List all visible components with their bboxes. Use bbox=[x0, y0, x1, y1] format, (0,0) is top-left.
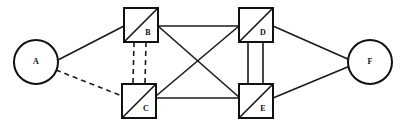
edge-a-b bbox=[56, 26, 124, 61]
edge-e-f bbox=[273, 66, 350, 98]
node-layer: ABCDEF bbox=[14, 8, 392, 118]
edge-d-f bbox=[273, 26, 350, 60]
node-a[interactable]: A bbox=[14, 40, 58, 84]
edge-b-c-right bbox=[145, 42, 146, 84]
node-b[interactable]: B bbox=[124, 8, 158, 42]
network-diagram: ABCDEF bbox=[0, 0, 403, 126]
node-label-d: D bbox=[260, 28, 266, 37]
node-f[interactable]: F bbox=[348, 40, 392, 84]
edge-b-c-left bbox=[133, 42, 134, 84]
edge-layer bbox=[56, 26, 350, 98]
node-d[interactable]: D bbox=[239, 8, 273, 42]
node-e[interactable]: E bbox=[239, 84, 273, 118]
edge-b-e bbox=[158, 26, 240, 98]
network-diagram-canvas: ABCDEF bbox=[0, 0, 403, 126]
node-label-c: C bbox=[143, 104, 149, 113]
node-label-a: A bbox=[33, 57, 39, 66]
node-c[interactable]: C bbox=[122, 84, 156, 118]
node-label-f: F bbox=[368, 57, 373, 66]
edge-a-c bbox=[56, 70, 122, 96]
node-label-e: E bbox=[260, 104, 265, 113]
node-label-b: B bbox=[145, 28, 151, 37]
